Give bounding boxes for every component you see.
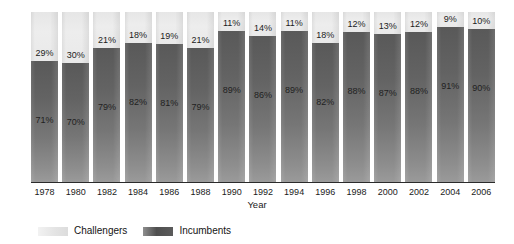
bar-column[interactable]: 29%71% xyxy=(31,12,58,182)
bar-column[interactable]: 19%81% xyxy=(156,12,183,182)
bar-segment-challengers[interactable]: 13% xyxy=(374,12,401,34)
x-tick-label: 1986 xyxy=(156,185,183,199)
x-tick-label: 2002 xyxy=(405,185,432,199)
bar-value-label: 87% xyxy=(379,89,397,98)
x-tick-label: 1998 xyxy=(343,185,370,199)
bar-column[interactable]: 11%89% xyxy=(218,12,245,182)
bar-segment-challengers[interactable]: 9% xyxy=(437,12,464,27)
bar-segment-incumbents[interactable]: 88% xyxy=(343,32,370,182)
bar-segment-incumbents[interactable]: 82% xyxy=(125,43,152,182)
bar-value-label: 29% xyxy=(35,49,53,58)
x-tick-label: 2004 xyxy=(437,185,464,199)
bar-column[interactable]: 18%82% xyxy=(125,12,152,182)
bar-segment-incumbents[interactable]: 79% xyxy=(93,48,120,182)
legend-label-challengers: Challengers xyxy=(74,226,127,236)
bar-value-label: 71% xyxy=(35,116,53,125)
bar-value-label: 88% xyxy=(410,87,428,96)
bar-segment-incumbents[interactable]: 89% xyxy=(281,31,308,182)
x-tick-label: 1978 xyxy=(31,185,58,199)
bar-segment-incumbents[interactable]: 89% xyxy=(218,31,245,182)
bar-segment-incumbents[interactable]: 82% xyxy=(312,43,339,182)
bar-value-label: 18% xyxy=(316,31,334,40)
bar-segment-incumbents[interactable]: 87% xyxy=(374,34,401,182)
bar-value-label: 11% xyxy=(223,19,240,28)
bar-value-label: 11% xyxy=(285,19,302,28)
bar-segment-challengers[interactable]: 11% xyxy=(281,12,308,31)
bar-value-label: 79% xyxy=(192,103,210,112)
x-tick-label: 1992 xyxy=(249,185,276,199)
x-tick-label: 2000 xyxy=(374,185,401,199)
bar-value-label: 9% xyxy=(444,15,457,24)
chart-legend: Challengers Incumbents xyxy=(38,226,231,236)
bar-value-label: 14% xyxy=(254,24,272,33)
x-axis-tick-labels: 1978198019821984198619881990199219941996… xyxy=(31,185,495,199)
bar-column[interactable]: 13%87% xyxy=(374,12,401,182)
bar-column[interactable]: 12%88% xyxy=(343,12,370,182)
bar-value-label: 12% xyxy=(348,20,366,29)
bar-value-label: 86% xyxy=(254,91,272,100)
legend-item-challengers: Challengers xyxy=(38,226,127,236)
bar-segment-incumbents[interactable]: 79% xyxy=(187,48,214,182)
bar-segment-challengers[interactable]: 10% xyxy=(468,12,495,29)
stacked-bar-chart: 29%71%30%70%21%79%18%82%19%81%21%79%11%8… xyxy=(0,0,514,244)
bar-segment-challengers[interactable]: 12% xyxy=(405,12,432,32)
bar-segment-challengers[interactable]: 21% xyxy=(93,12,120,48)
bar-segment-challengers[interactable]: 14% xyxy=(249,12,276,36)
legend-label-incumbents: Incumbents xyxy=(179,226,231,236)
bar-segment-incumbents[interactable]: 86% xyxy=(249,36,276,182)
x-tick-label: 1980 xyxy=(62,185,89,199)
bar-value-label: 82% xyxy=(316,98,334,107)
bar-value-label: 12% xyxy=(410,20,428,29)
bar-column[interactable]: 18%82% xyxy=(312,12,339,182)
bar-value-label: 13% xyxy=(379,22,397,31)
bar-value-label: 30% xyxy=(67,51,85,60)
x-axis-line xyxy=(31,182,495,183)
x-tick-label: 1982 xyxy=(93,185,120,199)
bar-value-label: 10% xyxy=(472,17,490,26)
bar-value-label: 82% xyxy=(129,98,147,107)
bar-segment-incumbents[interactable]: 70% xyxy=(62,63,89,182)
bar-segment-challengers[interactable]: 18% xyxy=(312,12,339,43)
bar-column[interactable]: 10%90% xyxy=(468,12,495,182)
bar-segment-incumbents[interactable]: 71% xyxy=(31,61,58,182)
x-tick-label: 1996 xyxy=(312,185,339,199)
x-tick-label: 2006 xyxy=(468,185,495,199)
bar-column[interactable]: 11%89% xyxy=(281,12,308,182)
bar-value-label: 19% xyxy=(160,32,178,41)
x-tick-label: 1984 xyxy=(125,185,152,199)
bar-value-label: 70% xyxy=(67,118,85,127)
bar-segment-challengers[interactable]: 29% xyxy=(31,12,58,61)
bar-value-label: 90% xyxy=(472,84,490,93)
bar-segment-incumbents[interactable]: 88% xyxy=(405,32,432,182)
bar-column[interactable]: 30%70% xyxy=(62,12,89,182)
bar-segment-incumbents[interactable]: 90% xyxy=(468,29,495,182)
bar-column[interactable]: 9%91% xyxy=(437,12,464,182)
x-tick-label: 1990 xyxy=(218,185,245,199)
bar-column[interactable]: 12%88% xyxy=(405,12,432,182)
bar-segment-challengers[interactable]: 21% xyxy=(187,12,214,48)
legend-item-incumbents: Incumbents xyxy=(143,226,231,236)
x-tick-label: 1988 xyxy=(187,185,214,199)
x-axis-title: Year xyxy=(0,199,514,210)
legend-swatch-incumbents-icon xyxy=(143,227,173,236)
plot-area: 29%71%30%70%21%79%18%82%19%81%21%79%11%8… xyxy=(31,12,495,182)
legend-swatch-challengers-icon xyxy=(38,227,68,236)
bar-segment-incumbents[interactable]: 81% xyxy=(156,44,183,182)
bar-value-label: 79% xyxy=(98,103,116,112)
bar-value-label: 91% xyxy=(441,82,459,91)
bar-segment-challengers[interactable]: 30% xyxy=(62,12,89,63)
bar-column[interactable]: 14%86% xyxy=(249,12,276,182)
bar-value-label: 81% xyxy=(160,99,178,108)
x-tick-label: 1994 xyxy=(281,185,308,199)
bar-segment-challengers[interactable]: 19% xyxy=(156,12,183,44)
bar-column[interactable]: 21%79% xyxy=(187,12,214,182)
bar-segment-challengers[interactable]: 18% xyxy=(125,12,152,43)
bar-value-label: 88% xyxy=(348,87,366,96)
bar-value-label: 21% xyxy=(98,36,116,45)
bar-value-label: 18% xyxy=(129,31,147,40)
bar-segment-incumbents[interactable]: 91% xyxy=(437,27,464,182)
bar-segment-challengers[interactable]: 11% xyxy=(218,12,245,31)
bar-segment-challengers[interactable]: 12% xyxy=(343,12,370,32)
bar-column[interactable]: 21%79% xyxy=(93,12,120,182)
bar-value-label: 89% xyxy=(285,86,303,95)
